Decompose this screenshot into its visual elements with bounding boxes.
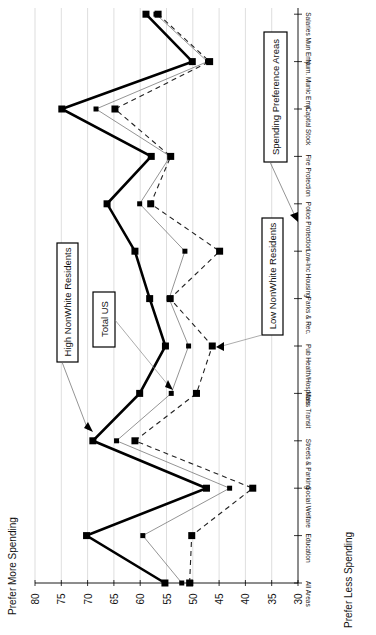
data-point-marker xyxy=(114,438,119,443)
prefer-less-label: Prefer Less Spending xyxy=(343,532,354,628)
data-point-marker xyxy=(58,106,65,113)
value-tick-label: 80 xyxy=(30,593,41,605)
data-point-marker xyxy=(161,580,168,587)
data-point-marker xyxy=(131,248,138,255)
data-point-marker xyxy=(89,437,96,444)
annotation-total-us: Total US xyxy=(93,292,173,390)
data-point-marker xyxy=(206,58,213,65)
value-tick-label: 65 xyxy=(109,593,120,605)
prefer-more-label: Prefer More Spending xyxy=(7,517,18,615)
category-label: Num. Munic Emp. xyxy=(304,60,312,112)
category-label: Capital Stock xyxy=(304,107,312,146)
category-label: Education xyxy=(305,534,312,563)
data-point-marker xyxy=(104,200,111,207)
data-point-marker xyxy=(189,58,196,65)
value-tick-label: 40 xyxy=(240,593,251,605)
data-point-marker xyxy=(169,391,174,396)
data-point-marker xyxy=(146,295,153,302)
data-point-marker xyxy=(179,581,184,586)
data-point-marker xyxy=(142,11,149,18)
value-tick-label: 35 xyxy=(267,593,278,605)
data-point-marker xyxy=(193,390,200,397)
data-point-marker xyxy=(182,249,187,254)
value-tick-label: 45 xyxy=(214,593,225,605)
category-label: Social Welfare xyxy=(305,486,312,528)
data-point-marker xyxy=(83,532,90,539)
rotated-line-chart: 8075706560555045403530 All AreasEducatio… xyxy=(0,0,376,635)
data-point-marker xyxy=(94,107,99,112)
data-point-marker xyxy=(137,201,142,206)
data-point-marker xyxy=(136,390,143,397)
data-point-marker xyxy=(249,485,256,492)
data-point-marker xyxy=(167,153,174,160)
series-line xyxy=(96,14,230,583)
value-tick-label: 55 xyxy=(162,593,173,605)
data-point-marker xyxy=(203,485,210,492)
data-point-marker xyxy=(188,532,195,539)
category-label: Low-Inc Housing xyxy=(304,249,312,298)
data-point-marker xyxy=(216,248,223,255)
svg-text:Total US: Total US xyxy=(99,301,110,337)
data-point-marker xyxy=(111,106,118,113)
category-label: Salaries Mun Emp xyxy=(304,12,312,65)
category-label: Pub Health/Hospitals xyxy=(304,344,312,405)
category-label: All Areas xyxy=(305,581,312,607)
data-point-marker xyxy=(148,153,155,160)
data-point-marker xyxy=(186,344,191,349)
data-point-marker xyxy=(162,343,169,350)
value-tick-label: 60 xyxy=(135,593,146,605)
category-label: Parks & Rec. xyxy=(305,297,312,335)
data-point-marker xyxy=(186,580,193,587)
annotation-spending-pref: Spending Preference Areas xyxy=(264,32,298,222)
value-tick-label: 70 xyxy=(83,593,94,605)
value-tick-label: 30 xyxy=(293,593,304,605)
svg-text:Low NonWhite Residents: Low NonWhite Residents xyxy=(267,222,278,329)
annotation-low-nonwhite: Low NonWhite Residents xyxy=(216,218,283,351)
category-axis: All AreasEducationSocial WelfareStreets … xyxy=(294,8,312,607)
svg-text:High NonWhite Residents: High NonWhite Residents xyxy=(62,247,73,356)
category-label: Police Protection xyxy=(305,202,312,251)
category-label: Streets & Parking xyxy=(304,439,312,490)
data-point-marker xyxy=(140,533,145,538)
svg-text:Spending Preference Areas: Spending Preference Areas xyxy=(270,39,281,155)
data-point-marker xyxy=(155,11,162,18)
value-tick-label: 75 xyxy=(56,593,67,605)
data-point-marker xyxy=(147,200,154,207)
value-tick-label: 50 xyxy=(188,593,199,605)
series-lines xyxy=(58,11,256,587)
data-point-marker xyxy=(131,437,138,444)
category-label: Fire Protection xyxy=(305,154,312,197)
data-point-marker xyxy=(227,486,232,491)
data-point-marker xyxy=(209,343,216,350)
data-point-marker xyxy=(167,295,174,302)
